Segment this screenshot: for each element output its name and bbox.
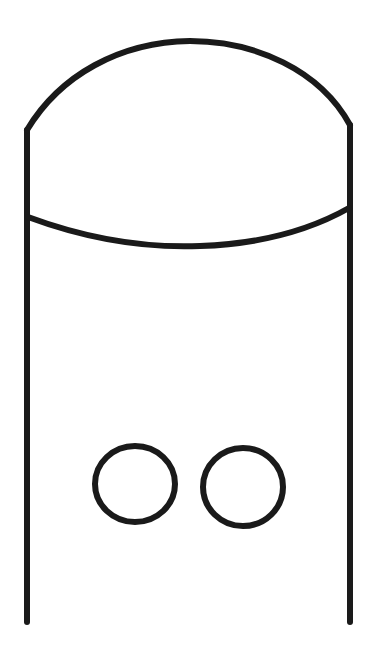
container-drawing	[0, 0, 378, 655]
background	[0, 0, 378, 655]
